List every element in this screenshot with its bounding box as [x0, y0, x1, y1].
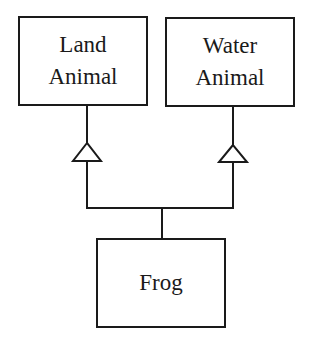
class-inheritance-diagram: Land Animal Water Animal Frog	[0, 0, 313, 347]
water-generalization-arrow-icon	[219, 145, 247, 162]
land-generalization-arrow-icon	[73, 143, 101, 161]
water-animal-label-line-2: Animal	[196, 62, 265, 94]
water-animal-label-line-1: Water	[203, 30, 257, 62]
frog-class-box: Frog	[96, 238, 226, 328]
frog-label: Frog	[139, 267, 182, 299]
land-animal-class-box: Land Animal	[18, 16, 148, 106]
water-animal-class-box: Water Animal	[165, 17, 295, 107]
land-animal-label-line-2: Animal	[49, 61, 118, 93]
land-animal-label-line-1: Land	[59, 29, 106, 61]
